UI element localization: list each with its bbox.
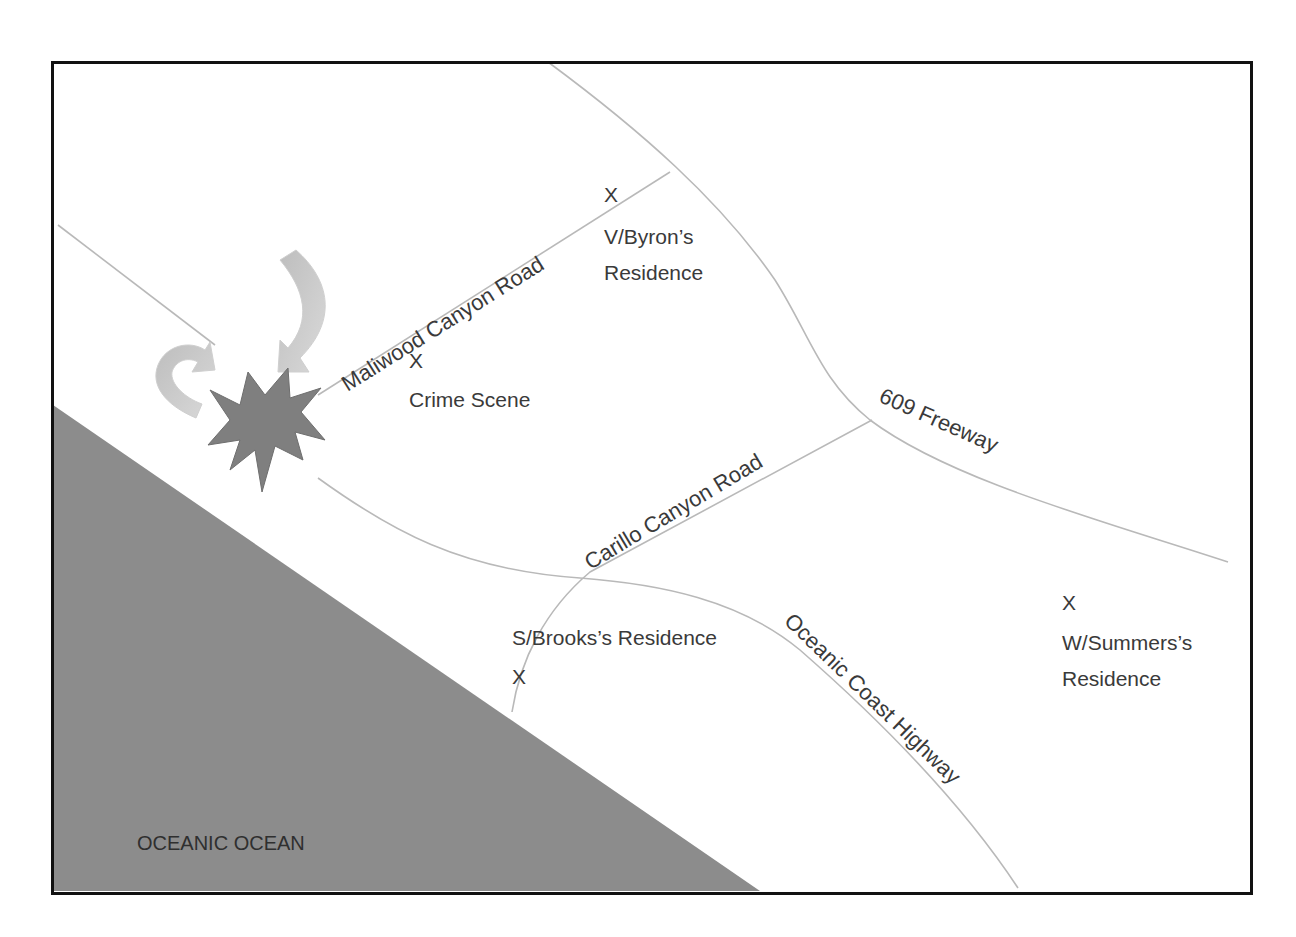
road-carillo-canyon [512,420,872,712]
road-609-freeway [548,62,1228,562]
byron-residence-marker: X [604,184,618,206]
brooks-residence-label: S/Brooks’s Residence [512,625,717,651]
crime-scene-label: Crime Scene [409,387,530,413]
ocean-label: OCEANIC OCEAN [137,830,305,856]
map-canvas: OCEANIC OCEAN Maliwood Canyon Road 609 F… [0,0,1296,937]
summers-residence-label-line2: Residence [1062,666,1161,692]
curved-arrow-down-icon [278,250,325,372]
byron-residence-label-line1: V/Byron’s [604,224,694,250]
road-northwest-coast [58,225,215,345]
u-turn-arrow-icon [156,342,215,418]
map-graphics [0,0,1296,937]
crime-scene-marker: X [409,350,423,372]
brooks-residence-marker: X [512,666,526,688]
explosion-icon [208,368,325,492]
summers-residence-label-line1: W/Summers’s [1062,630,1192,656]
byron-residence-label-line2: Residence [604,260,703,286]
summers-residence-marker: X [1062,592,1076,614]
